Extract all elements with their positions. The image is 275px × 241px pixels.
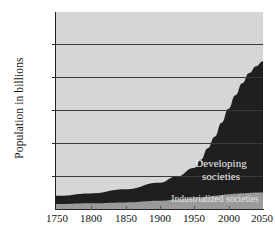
developing-societies-label-line1: Developing <box>178 157 264 170</box>
developing-societies-label-line2: societies <box>178 170 264 183</box>
x-tick-label-2050: 2050 <box>242 212 275 224</box>
x-tick-mark-2000 <box>229 206 230 210</box>
y-tick-mark-6 <box>52 110 56 111</box>
y-tick-group: 12 10 8 6 4 2 0 <box>0 0 275 241</box>
y-tick-mark-2 <box>52 176 56 177</box>
industrialized-societies-label: Industrialized societies <box>166 194 264 204</box>
x-tick-label-1950: 1950 <box>174 212 214 224</box>
x-tick-label-1800: 1800 <box>71 212 111 224</box>
x-tick-mark-1900 <box>160 206 161 210</box>
x-tick-mark-1950 <box>194 206 195 210</box>
x-tick-mark-1850 <box>126 206 127 210</box>
x-tick-mark-1800 <box>91 206 92 210</box>
y-tick-mark-10 <box>52 44 56 45</box>
population-area-chart: Population in billions 12 10 8 6 4 2 0 1… <box>0 0 275 241</box>
y-tick-mark-4 <box>52 143 56 144</box>
developing-societies-label: Developing societies <box>178 157 264 182</box>
y-tick-mark-8 <box>52 77 56 78</box>
